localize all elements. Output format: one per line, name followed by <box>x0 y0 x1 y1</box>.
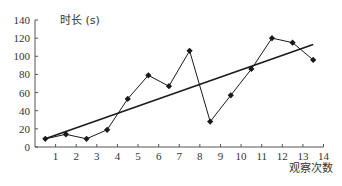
y-tick-label: 0 <box>25 141 31 153</box>
y-tick-label: 120 <box>14 32 31 44</box>
x-tick-label: 2 <box>73 150 79 162</box>
x-tick-label: 14 <box>318 150 330 162</box>
data-point-marker <box>186 48 192 54</box>
data-point-marker <box>83 136 89 142</box>
series-layer <box>42 35 316 142</box>
x-tick-label: 12 <box>277 150 288 162</box>
y-tick-label: 20 <box>19 123 31 135</box>
x-tick-label: 8 <box>197 150 203 162</box>
y-axis: 020406080100120140 <box>14 14 39 153</box>
y-tick-label: 140 <box>14 14 31 26</box>
data-point-marker <box>166 83 172 89</box>
x-tick-label: 6 <box>156 150 162 162</box>
y-tick-label: 60 <box>19 87 31 99</box>
line-chart: 020406080100120140 1234567891011121314 时… <box>0 0 342 186</box>
x-tick-label: 13 <box>297 150 309 162</box>
y-tick-label: 80 <box>19 68 31 80</box>
x-tick-label: 11 <box>256 150 267 162</box>
trend-line <box>45 45 313 139</box>
x-tick-label: 7 <box>177 150 183 162</box>
data-point-marker <box>104 127 110 133</box>
x-axis-title: 观察次数 <box>289 161 333 175</box>
x-tick-label: 5 <box>135 150 141 162</box>
x-axis: 1234567891011121314 <box>35 144 330 162</box>
x-tick-label: 1 <box>53 150 59 162</box>
x-tick-label: 10 <box>236 150 248 162</box>
y-tick-label: 40 <box>19 105 31 117</box>
data-line <box>45 38 313 139</box>
x-tick-label: 4 <box>115 150 121 162</box>
x-tick-label: 3 <box>94 150 100 162</box>
y-tick-label: 100 <box>14 50 31 62</box>
x-tick-label: 9 <box>218 150 224 162</box>
data-point-marker <box>269 35 275 41</box>
y-axis-title: 时长 (s) <box>60 14 100 27</box>
